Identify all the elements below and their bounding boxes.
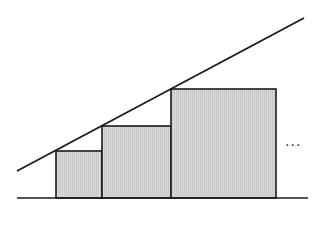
square-1 — [56, 151, 102, 198]
square-3 — [171, 89, 276, 198]
continuation-ellipsis: ··· — [285, 138, 301, 152]
square-2 — [102, 126, 171, 198]
squares-group — [56, 89, 276, 198]
diagram-canvas — [0, 0, 332, 232]
